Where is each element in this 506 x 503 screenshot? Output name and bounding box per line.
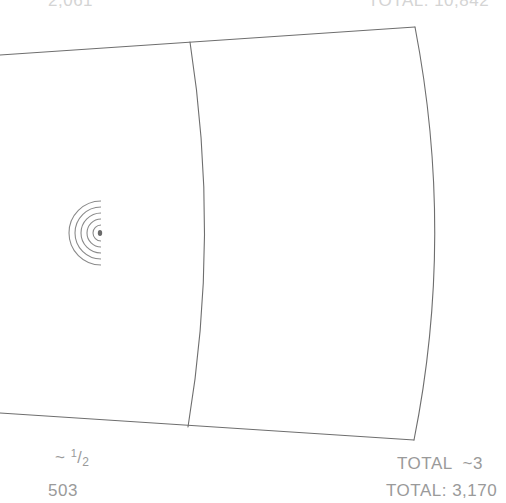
bottom-edge-line	[0, 413, 414, 440]
fraction-denominator: 2	[82, 455, 89, 469]
bottom-right-approx-total-label: TOTAL ~3	[397, 454, 483, 474]
bottom-left-fraction-label: ~ 1/2	[55, 447, 89, 469]
approx-symbol: ~	[55, 448, 65, 467]
top-edge-line	[0, 27, 415, 55]
top-right-total-label: TOTAL: 10,842	[368, 0, 489, 11]
middle-divider-curve	[188, 42, 205, 427]
emitter-center-dot	[98, 230, 102, 236]
right-outer-curve	[414, 27, 435, 440]
concentric-semicircle-icon	[69, 201, 101, 265]
bottom-left-count-label: 503	[48, 481, 78, 501]
bottom-right-total-value-label: TOTAL: 3,170	[386, 481, 497, 501]
diagram-canvas	[0, 0, 506, 503]
top-left-count-label: 2,061	[48, 0, 93, 11]
